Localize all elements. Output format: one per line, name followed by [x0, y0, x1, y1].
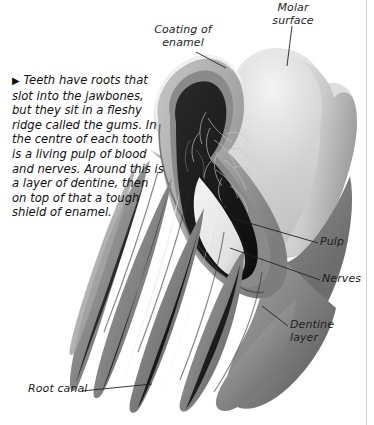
- caption-marker-icon: ▶: [12, 75, 20, 86]
- tooth-anatomy-figure: Molar surface Coating of enamel Pulp Ner…: [0, 0, 374, 425]
- label-molar-surface: Molar surface: [252, 2, 334, 27]
- caption-text: Teeth have roots that slot into the jawb…: [12, 73, 164, 219]
- label-nerves: Nerves: [322, 273, 372, 286]
- label-coating-of-enamel: Coating of enamel: [140, 24, 226, 49]
- label-root-canal: Root canal: [28, 383, 110, 396]
- label-pulp: Pulp: [320, 236, 368, 249]
- label-dentine-layer: Dentine layer: [290, 319, 360, 344]
- figure-caption: ▶ Teeth have roots that slot into the ja…: [12, 73, 164, 220]
- page-margin-rule: [366, 0, 367, 425]
